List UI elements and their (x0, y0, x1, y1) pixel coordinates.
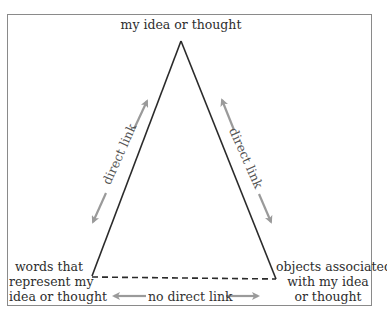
base-edge-dashed (92, 277, 276, 279)
bottom-left-label-line: words that (9, 259, 89, 274)
bottom-left-label: words that represent my idea or thought (9, 259, 89, 304)
bottom-right-label-line: or thought (276, 289, 380, 304)
left-edge (92, 41, 181, 276)
base-edge-label: no direct link (148, 289, 228, 304)
bottom-right-label-line: with my idea (276, 274, 380, 289)
bottom-left-label-line: represent my (9, 274, 89, 289)
bottom-right-label-line: objects associated (276, 259, 380, 274)
apex-label: my idea or thought (100, 17, 262, 32)
right-edge (181, 41, 276, 279)
bottom-left-label-line: idea or thought (9, 289, 89, 304)
bottom-right-label: objects associated with my idea or thoug… (276, 259, 380, 304)
